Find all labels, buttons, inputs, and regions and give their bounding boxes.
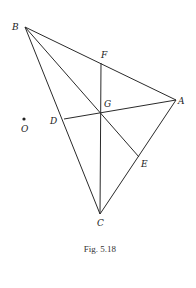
segment-FC: [100, 63, 101, 214]
label-B: B: [11, 22, 19, 32]
label-F: F: [100, 50, 108, 60]
geometry-figure: B A F G D O E C Fig. 5.18: [0, 0, 196, 288]
label-C: C: [97, 218, 104, 228]
label-E: E: [140, 159, 148, 169]
segment-DA: [64, 100, 176, 119]
segment-BC: [25, 27, 100, 214]
point-O-dot: [22, 117, 25, 120]
label-O: O: [21, 124, 29, 134]
label-D: D: [49, 116, 57, 126]
label-G: G: [104, 99, 111, 109]
label-A: A: [177, 96, 185, 106]
segment-BE: [25, 27, 139, 157]
figure-caption: Fig. 5.18: [84, 244, 117, 254]
segment-AC: [100, 100, 176, 214]
